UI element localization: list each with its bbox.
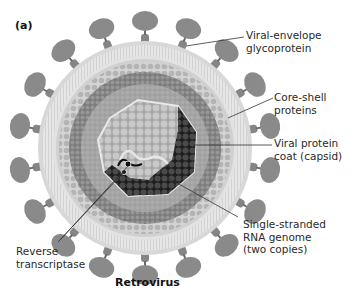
retrovirus-diagram: (a) Viral-envelope glycoprotein Core-she… xyxy=(0,0,350,296)
figure-caption: Retrovirus xyxy=(115,276,180,289)
label-capsid: Viral protein coat (capsid) xyxy=(274,137,342,162)
label-core-shell-proteins: Core-shell proteins xyxy=(274,91,327,116)
label-rna-genome: Single-stranded RNA genome (two copies) xyxy=(243,218,326,256)
panel-label: (a) xyxy=(15,19,32,32)
label-envelope-glycoprotein: Viral-envelope glycoprotein xyxy=(246,29,322,54)
label-reverse-transcriptase: Reverse transcriptase xyxy=(16,245,85,270)
